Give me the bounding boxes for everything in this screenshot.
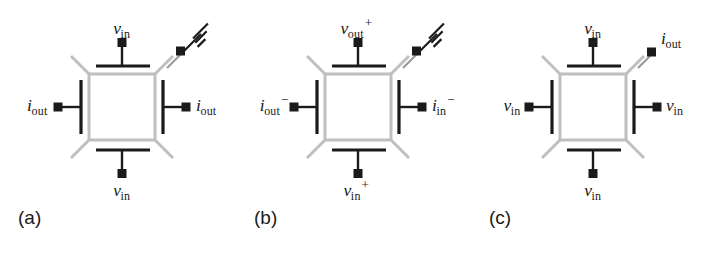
label-top-terminal: vout+ [340,20,371,38]
label-left-terminal: vin [503,97,521,115]
corner-stub-bottom-right [155,140,173,158]
pad-corner[interactable] [647,48,656,57]
pad-right[interactable] [653,103,662,112]
corner-stub-top-left [71,56,89,74]
device-body [560,74,626,140]
corner-stub-bottom-left [307,140,325,158]
label-bottom-terminal: vin+ [343,182,368,200]
pad-bottom[interactable] [589,169,598,178]
panel-caption-b: (b) [254,208,277,227]
device-body [89,74,155,140]
label-top-terminal: vin [584,20,602,38]
pad-left[interactable] [54,103,63,112]
panel-c: vin vin vin vin iout (c) [471,0,707,256]
label-right-terminal: iin− [432,97,454,115]
pad-left[interactable] [290,103,299,112]
panel-a: vin vin iout iout (a) [0,0,236,256]
corner-stub-bottom-right [391,140,409,158]
corner-stub-bottom-left [542,140,560,158]
pad-right[interactable] [182,103,191,112]
label-bottom-terminal: vin [113,182,131,200]
ground-stem [184,34,201,51]
corner-stub-top-left [542,56,560,74]
device-body [325,74,391,140]
pad-right[interactable] [418,103,427,112]
panel-b: vout+ vin+ iout− iin− (b) [236,0,472,256]
pad-left[interactable] [525,103,534,112]
label-right-terminal: vin [666,97,684,115]
pad-corner-ground[interactable] [412,47,421,56]
panel-caption-c: (c) [489,208,511,227]
panel-caption-a: (a) [18,208,41,227]
corner-stub-bottom-left [71,140,89,158]
label-left-terminal: iout− [260,97,288,115]
pad-corner-ground[interactable] [176,47,185,56]
figure-circuit-symbols: vin vin iout iout (a) [0,0,707,256]
label-left-terminal: iout [27,97,48,115]
label-bottom-terminal: vin [584,182,602,200]
label-corner-terminal: iout [661,30,682,48]
pad-bottom[interactable] [118,169,127,178]
ground-stem [420,34,437,51]
corner-stub-bottom-right [626,140,644,158]
label-top-terminal: vin [113,20,131,38]
corner-stub-top-left [307,56,325,74]
label-right-terminal: iout [196,97,217,115]
